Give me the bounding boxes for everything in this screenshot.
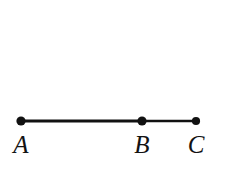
point-label-a: A: [13, 132, 28, 157]
point-dot-a: [16, 116, 25, 125]
point-dot-b: [137, 116, 146, 125]
line-segment-figure: A B C: [0, 0, 225, 185]
point-dot-c: [192, 117, 200, 125]
point-label-c: C: [188, 132, 205, 157]
point-label-b: B: [134, 132, 149, 157]
